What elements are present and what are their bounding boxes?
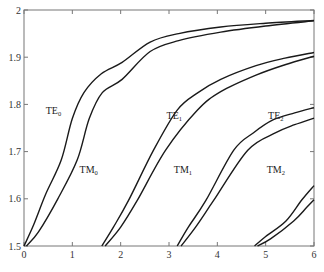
curve-labels: TE0TM0TE1TM1TE2TM2 <box>46 105 285 177</box>
y-tick-label: 1.7 <box>9 146 22 157</box>
x-tick-label: 4 <box>215 249 220 260</box>
x-tick-label: 2 <box>118 249 123 260</box>
curve-tm0 <box>26 21 314 246</box>
plot-frame <box>24 10 314 246</box>
curve-te1 <box>102 52 314 246</box>
x-tick-label: 1 <box>70 249 75 260</box>
y-tick-label: 1.8 <box>9 99 22 110</box>
x-tick-label: 0 <box>22 249 27 260</box>
curve-te0 <box>24 20 314 246</box>
label-tm0: TM0 <box>80 164 98 177</box>
x-tick-label: 6 <box>312 249 317 260</box>
y-tick-label: 2 <box>16 5 21 16</box>
x-tick-label: 3 <box>167 249 172 260</box>
label-tm1: TM1 <box>174 164 192 177</box>
x-tick-label: 5 <box>263 249 268 260</box>
curve-te3 <box>255 186 314 246</box>
y-axis: 1.51.61.71.81.92 <box>9 5 315 252</box>
series-group <box>24 20 314 246</box>
label-te1: TE1 <box>167 110 182 123</box>
y-tick-label: 1.6 <box>9 193 22 204</box>
label-te2: TE2 <box>268 110 283 123</box>
label-tm2: TM2 <box>267 164 285 177</box>
label-te0: TE0 <box>46 105 61 118</box>
curve-tm3 <box>257 200 314 246</box>
y-tick-label: 1.5 <box>9 241 22 252</box>
y-tick-label: 1.9 <box>9 52 22 63</box>
dispersion-chart: 0123456 1.51.61.71.81.92 TE0TM0TE1TM1TE2… <box>0 0 324 272</box>
